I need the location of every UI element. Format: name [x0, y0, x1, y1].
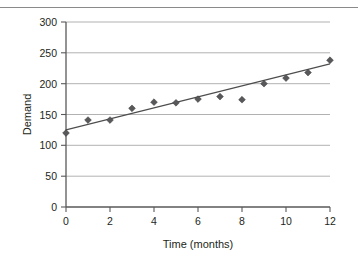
x-tick-label-10: 10 — [280, 215, 292, 227]
data-point-marker — [129, 105, 136, 112]
y-tick-label-250: 250 — [39, 47, 57, 59]
data-point-marker — [63, 130, 70, 137]
x-axis-tick-labels: 0 2 4 6 8 10 12 — [63, 215, 336, 227]
x-tick-label-12: 12 — [324, 215, 336, 227]
x-axis-tick-marks — [66, 207, 330, 212]
y-axis-title: Demand — [21, 94, 33, 136]
y-tick-label-0: 0 — [51, 201, 57, 213]
x-tick-label-8: 8 — [239, 215, 245, 227]
x-tick-label-4: 4 — [151, 215, 157, 227]
x-tick-label-2: 2 — [107, 215, 113, 227]
data-point-marker — [239, 96, 246, 103]
y-axis-tick-labels: 300 250 200 150 100 50 0 — [39, 16, 57, 213]
x-tick-label-6: 6 — [195, 215, 201, 227]
data-point-marker — [173, 99, 180, 106]
data-point-marker — [85, 117, 92, 124]
data-point-marker — [327, 57, 334, 64]
x-tick-label-0: 0 — [63, 215, 69, 227]
y-tick-label-300: 300 — [39, 16, 57, 28]
data-point-marker — [217, 93, 224, 100]
data-point-markers — [63, 57, 334, 137]
chart-figure: 300 250 200 150 100 50 0 0 2 4 6 8 10 12… — [0, 0, 358, 263]
y-tick-label-200: 200 — [39, 78, 57, 90]
y-tick-label-100: 100 — [39, 139, 57, 151]
y-axis-tick-marks — [61, 22, 66, 207]
y-tick-label-150: 150 — [39, 109, 57, 121]
data-point-marker — [107, 117, 114, 124]
demand-vs-time-scatter-chart: 300 250 200 150 100 50 0 0 2 4 6 8 10 12… — [0, 0, 358, 263]
data-point-marker — [151, 99, 158, 106]
x-axis-title: Time (months) — [163, 238, 234, 250]
y-tick-label-50: 50 — [45, 170, 57, 182]
